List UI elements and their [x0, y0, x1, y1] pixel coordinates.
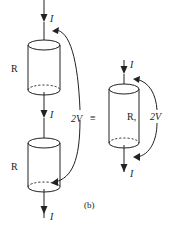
- resistor-label-bottom: R: [11, 162, 18, 172]
- figure-caption: (b): [84, 201, 95, 210]
- left-middle-wire: [41, 92, 48, 142]
- equivalence-symbol: ≡: [90, 113, 96, 123]
- current-label-left-middle: I: [50, 110, 53, 120]
- current-label-left-top: I: [50, 14, 53, 24]
- voltage-label-right: 2V: [150, 112, 161, 122]
- current-label-right-bottom: I: [130, 169, 133, 179]
- left-top-wire: [41, 0, 48, 44]
- left-bottom-wire: [41, 189, 48, 218]
- diagram-canvas: [0, 0, 175, 234]
- right-bottom-wire: [121, 145, 128, 172]
- resistor-label-top: R: [11, 64, 18, 74]
- current-label-right-top: I: [130, 60, 133, 70]
- left-voltage-arc: [51, 27, 80, 186]
- current-label-left-bottom: I: [50, 212, 53, 222]
- voltage-label-left: 2V: [71, 114, 82, 124]
- resistor-cylinder-top: [28, 40, 60, 95]
- resistor-label-equivalent: R,: [127, 112, 136, 122]
